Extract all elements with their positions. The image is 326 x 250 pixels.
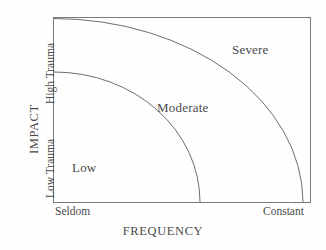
x-axis-tick-label-constant: Constant: [263, 205, 304, 217]
inner-arc-boundary: [54, 72, 200, 202]
y-axis-tick-label-low-trauma: Low Trauma: [44, 139, 56, 198]
y-axis-title: IMPACT: [27, 104, 42, 154]
region-label-moderate: Moderate: [157, 100, 208, 116]
region-label-severe: Severe: [232, 42, 269, 58]
x-axis-title: FREQUENCY: [0, 224, 326, 239]
region-label-low: Low: [72, 160, 96, 176]
x-axis-tick-label-seldom: Seldom: [55, 205, 90, 217]
impact-frequency-risk-chart: Severe Moderate Low Seldom Constant High…: [0, 0, 326, 250]
y-axis-tick-label-high-trauma: High Trauma: [44, 43, 56, 104]
